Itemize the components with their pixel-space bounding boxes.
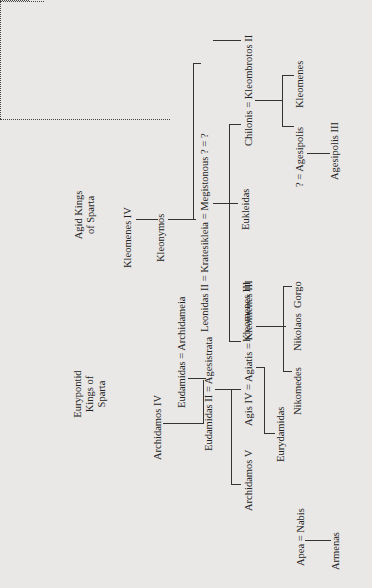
link-to-eurydamidas bbox=[264, 433, 275, 434]
link-to-agis bbox=[231, 389, 241, 390]
link-megistonous-kleombrotos bbox=[213, 40, 241, 41]
link-agesipolis-son bbox=[307, 153, 330, 154]
archidamos-v: Archidamos V bbox=[243, 450, 255, 511]
link-eudamidas-ii-children bbox=[215, 389, 231, 390]
link-to-chilonis bbox=[229, 124, 241, 125]
link-to-megistonous bbox=[193, 63, 201, 64]
link-to-gorgo bbox=[283, 286, 292, 287]
link-to-archidamos-v bbox=[231, 484, 241, 485]
nikolaos: Nikolaos bbox=[292, 313, 304, 351]
link-kleonymos-leonidas bbox=[168, 219, 196, 220]
kleomenes-iv: Kleomenes IV bbox=[122, 207, 134, 268]
link-agiatis-children bbox=[256, 326, 286, 327]
link-chilonis-children bbox=[255, 100, 283, 101]
link-to-kleomenes-iii bbox=[229, 341, 241, 342]
leonidas-children-bar bbox=[229, 124, 230, 342]
chilonis-children-bar bbox=[282, 75, 283, 127]
nikomedes: Nikomedes bbox=[292, 367, 304, 415]
dotted-to-nabis bbox=[0, 119, 170, 120]
kleonymos: Kleonymos bbox=[155, 214, 167, 262]
chilonis-kleombrotos-row: Chilonis = Kleombrotos II bbox=[243, 35, 255, 146]
eukleidas: Eukleidas bbox=[240, 189, 252, 230]
agesipolis-row: ? = Agesipolis bbox=[294, 127, 306, 187]
eudamidas-ii-row: Eudamidas II = Agesistrata bbox=[203, 337, 215, 451]
eudamidas-archidameia-row: Eudamidas = Archidameia bbox=[176, 297, 188, 408]
agesipolis-iii: Agesipolis III bbox=[329, 122, 341, 180]
agiatis-children-bar bbox=[283, 286, 284, 371]
archidamos-iv: Archidamos IV bbox=[152, 395, 164, 460]
eurydamidas: Eurydamidas bbox=[275, 407, 287, 462]
eurypontid-dotted-link bbox=[0, 1, 44, 2]
kleonymos-children-bar bbox=[193, 63, 194, 220]
link-to-nikomedes bbox=[283, 371, 292, 372]
link-nabis-son bbox=[305, 540, 331, 541]
kleomenes: Kleomenes bbox=[294, 61, 306, 108]
eudamidas-ii-children-bar bbox=[231, 389, 232, 485]
leonidas-marriage-row: Leonidas II = Kratesikleia = Megistonous… bbox=[199, 133, 211, 332]
gorgo: Gorgo bbox=[292, 281, 304, 308]
armenas: Armenas bbox=[330, 532, 342, 570]
eurypontid-dotted-down bbox=[0, 2, 1, 119]
link-to-kleomenes bbox=[282, 75, 294, 76]
agis-son-bar bbox=[264, 367, 265, 433]
agid-kings-header: Agid Kings of Sparta bbox=[73, 190, 97, 240]
eurypontid-kings-header: Eurypontid Kings of Sparta bbox=[72, 363, 108, 425]
agis-agiatis-kleomenes-row: Agis IV = Agiatis = Kleomenes III bbox=[243, 280, 255, 426]
link-to-agesipolis bbox=[282, 126, 294, 127]
link-archidamos-children bbox=[163, 423, 203, 424]
link-to-eukleidas bbox=[213, 203, 238, 204]
apea-nabis-row: Apea = Nabis bbox=[295, 508, 307, 566]
